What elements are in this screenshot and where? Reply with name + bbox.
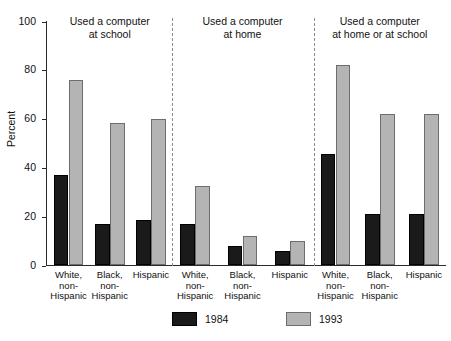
category-label: Hispanic	[392, 270, 451, 281]
legend-label-1993: 1993	[319, 313, 342, 325]
bar	[110, 123, 125, 266]
y-tick-label: 20	[10, 210, 36, 222]
bar	[275, 251, 290, 266]
chart-legend: 1984 1993	[0, 308, 451, 334]
y-tick-mark	[42, 266, 46, 267]
bar	[424, 114, 439, 265]
y-tick-mark	[42, 168, 46, 169]
bar	[228, 246, 243, 266]
bar	[54, 175, 69, 265]
category-label-line3: Hispanic	[211, 291, 275, 302]
bar	[290, 241, 305, 265]
bar	[380, 114, 395, 265]
category-label-line1: Hispanic	[392, 270, 451, 281]
bar	[136, 220, 151, 265]
panel-title-line2: at home	[162, 28, 324, 41]
category-label-line3: Hispanic	[78, 291, 142, 302]
bar	[365, 214, 380, 265]
legend-swatch-1993-icon	[286, 312, 311, 326]
bar	[336, 65, 351, 265]
y-tick-label: 100	[10, 15, 36, 27]
panel-title-line2: at home or at school	[304, 28, 451, 41]
panel-title-line1: Used a computer	[304, 15, 451, 28]
bar	[195, 186, 210, 265]
y-tick-label: 40	[10, 161, 36, 173]
panel-title-line1: Used a computer	[38, 15, 182, 28]
y-tick-label: 60	[10, 112, 36, 124]
y-tick-mark	[42, 217, 46, 218]
legend-entry-1993: 1993	[286, 312, 342, 326]
panel-separator	[314, 18, 315, 266]
y-tick-mark	[42, 119, 46, 120]
y-tick-label: 80	[10, 63, 36, 75]
panel-title: Used a computerat school	[38, 15, 182, 41]
panel-title-line2: at school	[38, 28, 182, 41]
legend-entry-1984: 1984	[172, 312, 228, 326]
bar-chart: Percent 020406080100 Used a computerat s…	[0, 0, 451, 341]
bar	[409, 214, 424, 265]
legend-label-1984: 1984	[205, 313, 228, 325]
panel-separator	[172, 18, 173, 266]
y-tick-mark	[42, 70, 46, 71]
bar	[95, 224, 110, 265]
y-axis-title: Percent	[5, 94, 17, 164]
panel-title: Used a computerat home or at school	[304, 15, 451, 41]
bar	[69, 80, 84, 265]
panel-title-line1: Used a computer	[162, 15, 324, 28]
bar	[243, 236, 258, 265]
bar	[151, 119, 166, 265]
y-tick-label: 0	[10, 259, 36, 271]
bar	[321, 154, 336, 265]
y-axis-line	[46, 21, 47, 266]
panel-title: Used a computerat home	[162, 15, 324, 41]
bar	[180, 224, 195, 265]
legend-swatch-1984-icon	[172, 312, 197, 326]
category-label-line3: Hispanic	[348, 291, 412, 302]
